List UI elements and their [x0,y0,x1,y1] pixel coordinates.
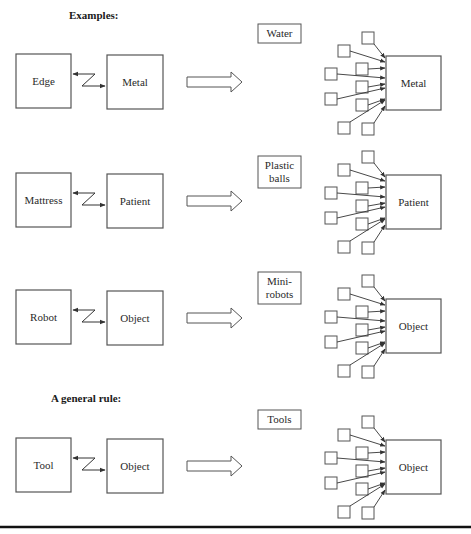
action-arrow [374,163,385,177]
general-rule-heading: A general rule: [51,392,121,404]
action-arrow [374,106,385,123]
diagram-row: EdgeMetalWaterMetal [16,24,441,135]
small-element-box [356,182,368,194]
left-box-label: Robot [30,311,57,323]
small-element-box [362,123,374,135]
small-element-box [356,324,368,336]
examples-heading: Examples: [69,9,119,21]
small-element-box [356,306,368,318]
small-element-box [338,122,350,134]
right-box-label: Patient [120,195,151,207]
small-element-box [362,366,374,378]
action-arrow [368,327,385,330]
left-box-label: Edge [32,75,55,87]
interaction-zigzag-arrow [73,310,105,322]
action-arrow [374,225,385,242]
action-arrow [368,452,385,453]
small-element-box [362,242,374,254]
small-element-box [325,477,337,489]
transform-arrow-icon [187,191,242,211]
medium-box-label: robots [266,288,294,300]
diagram-row: ToolObjectToolsObject [16,410,441,519]
action-arrow [368,187,385,188]
action-arrow [350,170,385,181]
transform-arrow-icon [187,308,242,328]
small-element-box [362,416,374,428]
action-arrow [350,435,385,446]
small-element-box [362,507,374,519]
medium-box-label: balls [269,172,290,184]
medium-box-label: Plastic [265,159,294,171]
small-element-box [356,99,368,111]
action-arrow [368,468,385,471]
small-element-box [356,218,368,230]
action-arrow [368,84,385,87]
small-element-box [362,32,374,44]
interaction-zigzag-arrow [73,458,105,470]
small-element-box [325,187,337,199]
small-element-box [325,93,337,105]
small-element-box [356,447,368,459]
transform-arrow-icon [187,456,242,476]
action-arrow [368,68,385,69]
interaction-zigzag-arrow [73,193,105,205]
small-element-box [362,275,374,287]
diagram-canvas: Examples: A general rule: EdgeMetalWater… [0,0,471,534]
action-arrow [350,294,385,305]
small-element-box [325,311,337,323]
transform-arrow-icon [187,72,242,92]
medium-box-label: Tools [267,413,291,425]
target-box-label: Patient [398,196,429,208]
left-box-label: Tool [33,459,53,471]
action-arrow [374,287,385,301]
right-box-label: Object [120,460,149,472]
small-element-box [325,212,337,224]
small-element-box [325,68,337,80]
left-box-label: Mattress [25,194,63,206]
small-element-box [356,81,368,93]
medium-box-label: Water [267,27,293,39]
right-box-label: Metal [122,76,148,88]
action-arrow [350,51,385,62]
small-element-box [338,45,350,57]
action-arrow [374,490,385,507]
target-box-label: Object [399,461,428,473]
action-arrow [374,44,385,58]
small-element-box [325,452,337,464]
diagram-row: MattressPatientPlasticballsPatient [16,151,441,254]
small-element-box [356,342,368,354]
small-element-box [338,164,350,176]
small-element-box [325,336,337,348]
interaction-zigzag-arrow [73,74,105,86]
action-arrow [368,203,385,206]
small-element-box [356,200,368,212]
small-element-box [338,241,350,253]
medium-box-label: Mini- [267,275,292,287]
small-element-box [338,429,350,441]
small-element-box [356,63,368,75]
action-arrow [374,428,385,442]
diagram-row: RobotObjectMini-robotsObject [16,272,441,378]
small-element-box [356,465,368,477]
small-element-box [356,483,368,495]
small-element-box [338,506,350,518]
small-element-box [338,288,350,300]
target-box-label: Metal [401,77,427,89]
action-arrow [374,349,385,366]
right-box-label: Object [120,312,149,324]
small-element-box [338,365,350,377]
action-arrow [368,311,385,312]
target-box-label: Object [399,320,428,332]
small-element-box [362,151,374,163]
